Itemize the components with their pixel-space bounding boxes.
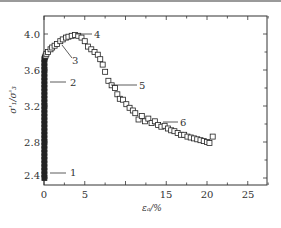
axis-ticks bbox=[44, 16, 268, 185]
caption-blurred bbox=[0, 218, 281, 228]
data-points bbox=[42, 32, 215, 180]
annotation-4: 4 bbox=[94, 29, 100, 40]
annotation-6: 6 bbox=[180, 117, 186, 128]
annotation-1: 1 bbox=[70, 167, 76, 178]
stress-ratio-chart: 4.0 3.6 3.2 2.8 2.4 0 5 15 20 25 σ'₁/σ'₃… bbox=[0, 0, 281, 228]
annotation-5: 5 bbox=[139, 80, 145, 91]
y-axis-title: σ'₁/σ'₃ bbox=[8, 86, 18, 114]
x-tick-20: 20 bbox=[201, 189, 214, 200]
x-tick-25: 25 bbox=[242, 189, 255, 200]
y-tick-3.2: 3.2 bbox=[24, 101, 40, 112]
annotation-2: 2 bbox=[70, 77, 76, 88]
annotation-3: 3 bbox=[72, 55, 78, 66]
y-tick-2.8: 2.8 bbox=[24, 137, 40, 148]
x-axis-title: εₐ/% bbox=[142, 203, 162, 213]
x-tick-5: 5 bbox=[82, 189, 88, 200]
plot-frame bbox=[44, 16, 267, 185]
y-tick-3.6: 3.6 bbox=[24, 65, 40, 76]
y-tick-2.4: 2.4 bbox=[24, 170, 40, 181]
y-tick-4.0: 4.0 bbox=[24, 29, 40, 40]
annotation-leaders bbox=[50, 34, 178, 173]
x-tick-0: 0 bbox=[41, 189, 47, 200]
x-tick-15: 15 bbox=[160, 189, 173, 200]
